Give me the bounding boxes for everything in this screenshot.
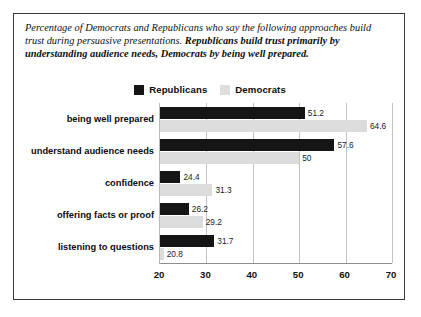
legend-label-democrats: Democrats [235, 84, 286, 95]
plot-area: being well preparedunderstand audience n… [159, 103, 392, 264]
category-label: being well prepared [67, 114, 154, 124]
bar-value-label: 24.4 [183, 172, 199, 182]
bar-republicans [160, 235, 214, 247]
category-label: confidence [105, 178, 154, 188]
legend-swatch-democrats-icon [220, 85, 230, 95]
category-label: understand audience needs [31, 146, 154, 156]
bar-republicans [160, 139, 334, 151]
bar-value-label: 51.2 [308, 108, 324, 118]
bar-democrats [160, 216, 203, 228]
figure-caption: Percentage of Democrats and Republicans … [25, 21, 377, 61]
bar-value-label: 31.3 [215, 185, 231, 195]
bar-republicans [160, 203, 189, 215]
bar-value-label: 29.2 [206, 217, 222, 227]
x-tick-label: 70 [386, 269, 397, 280]
x-tick-label: 50 [293, 269, 304, 280]
bar-republicans [160, 171, 180, 183]
bar-democrats [160, 120, 367, 132]
legend-label-republicans: Republicans [149, 84, 207, 95]
gridline [392, 103, 393, 263]
legend-entry-republicans: Republicans [134, 84, 207, 95]
bar-value-label: 64.6 [370, 121, 386, 131]
bar-republicans [160, 107, 305, 119]
bar-value-label: 31.7 [217, 236, 233, 246]
bar-value-label: 26.2 [192, 204, 208, 214]
x-tick-label: 60 [339, 269, 350, 280]
bar-value-label: 20.8 [167, 249, 183, 259]
category-label: listening to questions [58, 242, 154, 252]
bar-democrats [160, 184, 212, 196]
bar-value-label: 57.6 [337, 140, 353, 150]
x-tick-label: 20 [154, 269, 165, 280]
figure-frame: Percentage of Democrats and Republicans … [13, 13, 405, 300]
bar-democrats [160, 152, 299, 164]
x-tick-label: 30 [200, 269, 211, 280]
category-label: offering facts or proof [57, 210, 154, 220]
x-axis-tick-labels: 203040506070 [159, 265, 392, 285]
x-tick-label: 40 [246, 269, 257, 280]
bar-value-label: 50 [302, 153, 311, 163]
legend-swatch-republicans-icon [134, 85, 144, 95]
legend-entry-democrats: Democrats [220, 84, 286, 95]
category-axis-labels: being well preparedunderstand audience n… [30, 103, 154, 263]
chart-legend: Republicans Democrats [14, 84, 406, 95]
bar-democrats [160, 248, 164, 260]
